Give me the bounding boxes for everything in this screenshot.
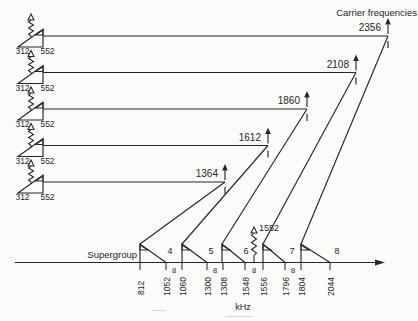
input-row-1: 312 552 [15,14,388,56]
band-flag-icon [36,30,44,35]
input-row-5: 312 552 [15,160,225,202]
supergroup-number-6: 6 [243,246,248,256]
carrier-value-label: 1860 [278,95,301,106]
band-flag-icon [182,245,190,250]
band-high-label: 552 [40,83,54,93]
band-high-label: 552 [40,119,54,129]
tick-label-812: 812 [136,281,146,295]
supergroup-number-5: 5 [208,246,213,256]
pilot-1552: 1552 [251,223,279,262]
tick-label-1804: 1804 [297,277,307,296]
band-flag-icon [263,245,271,250]
gap-width-label-4: 8 [291,266,295,275]
axis-arrow-icon [375,260,385,266]
pilot-arrow-icon [28,124,34,148]
tick-label-1548: 1548 [241,277,251,296]
tick-label-1308: 1308 [219,277,229,296]
supergroup-label: Supergroup [87,249,137,260]
band-high-label: 552 [40,192,54,202]
input-row-3: 312 552 [15,87,307,129]
band-high-label: 552 [40,46,54,56]
up-arrow-icon [353,55,359,62]
input-row-2: 312 552 [15,51,356,93]
tick-label-1796: 1796 [281,277,291,296]
up-arrow-icon [304,91,310,98]
diagram-canvas: Carrier frequencies 312 552 312 552 312 … [0,0,418,321]
band-low-label: 312 [15,192,29,202]
tick-label-1060: 1060 [178,277,188,296]
carrier-value-label: 2108 [327,59,350,70]
band-low-label: 312 [15,119,29,129]
band-triangle [140,244,166,263]
carrier-junction-2108: 2108 [263,55,359,245]
carrier-value-label: 2356 [359,22,382,33]
supergroup-triangle-4 [140,244,166,263]
pilot-arrow-icon [28,14,34,38]
pilot-arrow-icon [251,227,257,233]
pilot-arrow-icon [28,160,34,184]
tick-label-1556: 1556 [259,277,269,296]
band-flag-icon [36,176,44,181]
frequency-axis: 812 1052 1060 1300 1308 1548 1556 1796 1… [15,260,385,312]
carrier-junction-1364: 1364 [140,164,228,244]
carrier-junction-1860: 1860 [222,91,310,244]
supergroup-number-8: 8 [334,246,339,256]
band-flag-icon [140,245,148,250]
pilot-arrow-icon [28,87,34,111]
carrier-value-label: 1364 [196,168,219,179]
carrier-frequencies-title: Carrier frequencies [336,7,417,18]
gap-width-label-1: 8 [172,266,176,275]
tick-label-1300: 1300 [203,277,213,296]
carrier-value-label: 1612 [239,132,262,143]
up-arrow-icon [385,18,391,25]
translation-diagonal [140,182,225,244]
input-row-4: 312 552 [15,124,268,166]
up-arrow-icon [265,128,271,135]
gap-width-label-2: 8 [213,266,217,275]
fdm-supergroup-translation-diagram: Carrier frequencies 312 552 312 552 312 … [0,0,418,321]
band-flag-icon [301,245,309,250]
up-arrow-icon [222,164,228,171]
band-flag-icon [36,67,44,72]
supergroup-triangle-8 [301,244,330,263]
carrier-junction-2356: 2356 [301,18,391,244]
band-high-label: 552 [40,156,54,166]
pilot-frequency-label: 1552 [259,223,279,233]
band-low-label: 312 [15,156,29,166]
supergroup-triangle-7 [263,244,285,263]
tick-label-1052: 1052 [162,277,172,296]
pilot-arrow-body [252,233,257,262]
band-flag-icon [36,140,44,145]
band-flag-icon [36,103,44,108]
pilot-arrow-icon [28,51,34,75]
band-triangle [301,244,330,263]
tick-label-2044: 2044 [326,277,336,296]
band-low-label: 312 [15,46,29,56]
supergroup-number-4: 4 [167,246,172,256]
gap-width-label-3: 8 [252,266,256,275]
band-low-label: 312 [15,83,29,93]
supergroup-triangle-5 [182,244,207,263]
band-flag-icon [222,245,230,250]
supergroup-triangle-6 [222,244,245,263]
axis-unit-label: kHz [235,302,251,312]
supergroup-number-7: 7 [289,246,294,256]
